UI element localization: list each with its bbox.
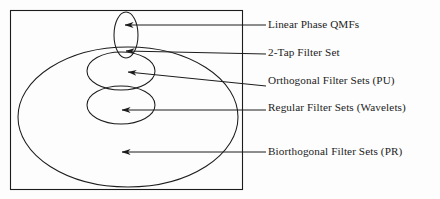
region-label-two-tap-filter-set: 2-Tap Filter Set [268, 46, 340, 58]
orthogonal-filter-sets-ellipse [87, 52, 155, 90]
leader-arrow-orthogonal-filter-sets [128, 72, 266, 86]
set-diagram-graphic [0, 0, 440, 199]
leader-arrow-two-tap-filter-set [126, 51, 266, 54]
region-label-linear-phase-qmfs: Linear Phase QMFs [268, 18, 359, 30]
region-label-regular-filter-sets: Regular Filter Sets (Wavelets) [268, 101, 406, 113]
regular-filter-sets-ellipse [87, 86, 155, 124]
region-label-orthogonal-filter-sets: Orthogonal Filter Sets (PU) [268, 74, 395, 86]
region-label-biorthogonal-filter-sets: Biorthogonal Filter Sets (PR) [268, 145, 402, 157]
biorthogonal-filter-sets-ellipse [18, 47, 238, 187]
diagram-canvas: Linear Phase QMFs 2-Tap Filter Set Ortho… [0, 0, 440, 199]
